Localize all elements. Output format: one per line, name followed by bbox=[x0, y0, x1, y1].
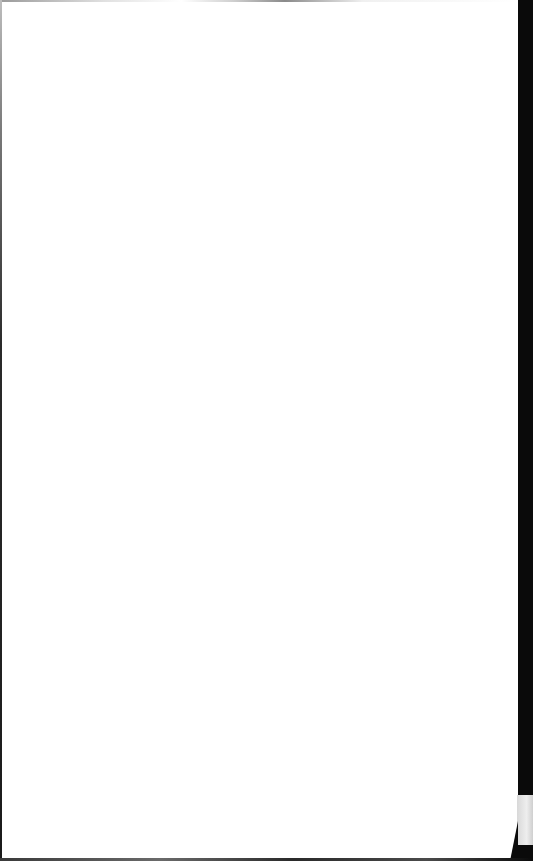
blank-paper-sheet bbox=[2, 2, 518, 858]
page-fold-corner bbox=[517, 795, 533, 845]
scanned-page bbox=[0, 0, 533, 861]
scan-edge-left bbox=[0, 0, 2, 861]
scan-edge-top bbox=[0, 0, 518, 2]
scan-shadow-wedge bbox=[510, 821, 518, 861]
scan-edge-right bbox=[518, 0, 533, 861]
